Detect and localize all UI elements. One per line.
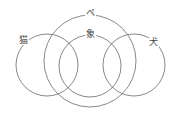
label-elephant: 象 — [85, 30, 96, 39]
label-cat: 猫 — [18, 36, 29, 45]
label-dog: 犬 — [148, 38, 159, 47]
circle-elephant — [59, 35, 121, 97]
label-pe: ペ — [85, 9, 96, 18]
